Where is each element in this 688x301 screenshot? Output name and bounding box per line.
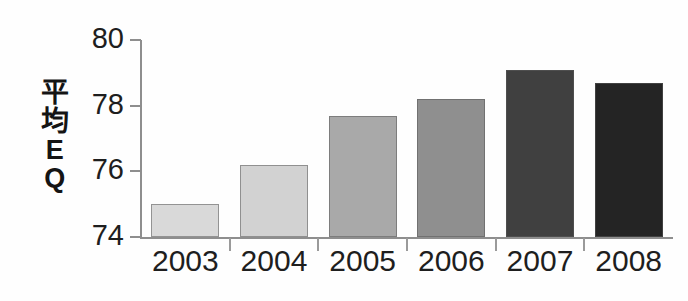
y-tick-76: 76 — [130, 170, 141, 172]
bar-2003[interactable]: 75 — [151, 204, 219, 237]
y-tick-label-74: 74 — [78, 219, 124, 252]
y-tick-label-76: 76 — [78, 153, 124, 186]
y-axis-title-line-2: 均 — [28, 107, 82, 136]
y-axis-title-line-4: Q — [28, 164, 82, 192]
x-axis-label-2006: 2006 — [407, 244, 496, 278]
bar-2006[interactable]: 78.2 — [417, 99, 485, 237]
x-axis-label-2008: 2008 — [584, 244, 673, 278]
y-axis-line — [140, 40, 142, 237]
bar-2007[interactable]: 79.1 — [506, 70, 574, 237]
bar-chart: 平 均 E Q 74767880 7576.277.778.279.178.7 … — [0, 0, 688, 301]
plot-area: 74767880 7576.277.778.279.178.7 — [141, 40, 673, 237]
y-tick-80: 80 — [130, 39, 141, 41]
y-tick-78: 78 — [130, 105, 141, 107]
y-axis-title-line-1: 平 — [28, 78, 82, 107]
y-tick-label-80: 80 — [78, 22, 124, 55]
x-axis-label-2007: 2007 — [496, 244, 585, 278]
x-axis-label-2004: 2004 — [230, 244, 319, 278]
y-tick-label-78: 78 — [78, 88, 124, 121]
y-axis-title: 平 均 E Q — [28, 78, 82, 192]
y-axis-title-line-3: E — [28, 136, 82, 164]
bar-2004[interactable]: 76.2 — [240, 165, 308, 237]
y-tick-74: 74 — [130, 236, 141, 238]
x-axis-label-2005: 2005 — [318, 244, 407, 278]
bar-2008[interactable]: 78.7 — [595, 83, 663, 237]
x-axis-label-2003: 2003 — [141, 244, 230, 278]
bar-2005[interactable]: 77.7 — [329, 116, 397, 237]
